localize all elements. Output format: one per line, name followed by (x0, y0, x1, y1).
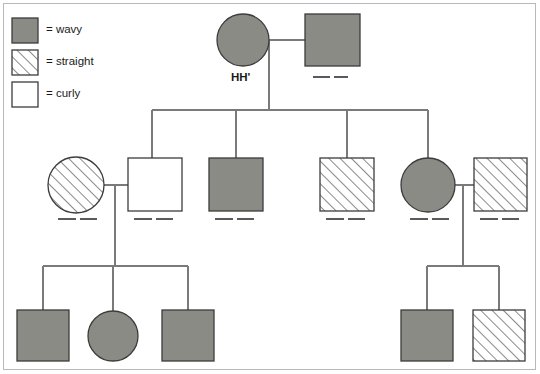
legend-swatch-hatched (12, 50, 38, 75)
legend-label-open: = curly (46, 87, 80, 99)
individual-ii-2-male-open[interactable] (128, 158, 182, 211)
individual-ii-4-male-hatched[interactable] (320, 158, 374, 211)
individual-iii-4-male-shaded[interactable] (401, 310, 453, 361)
individual-i-2-male-shaded[interactable] (305, 14, 360, 66)
pedigree-figure: = wavy= straight= curly HH' (0, 0, 540, 374)
genotype-label-i-1: HH' (231, 71, 250, 83)
individual-iii-3-male-shaded[interactable] (162, 310, 214, 361)
individual-iii-2-female-shaded[interactable] (88, 311, 138, 361)
individual-iii-1-male-shaded[interactable] (17, 310, 69, 361)
individual-ii-3-male-shaded[interactable] (209, 158, 263, 211)
legend-swatch-shaded (12, 18, 38, 43)
individual-ii-1-female-hatched[interactable] (48, 157, 104, 213)
legend-label-shaded: = wavy (46, 23, 82, 35)
legend-swatch-open (12, 82, 38, 107)
individual-ii-6-male-hatched[interactable] (474, 158, 527, 211)
legend-symbols-layer (12, 18, 38, 107)
individual-ii-5-female-shaded[interactable] (401, 158, 455, 212)
legend-label-hatched: = straight (46, 55, 94, 67)
individual-iii-5-male-hatched[interactable] (473, 310, 525, 361)
individual-i-1-female-shaded[interactable] (217, 14, 269, 66)
